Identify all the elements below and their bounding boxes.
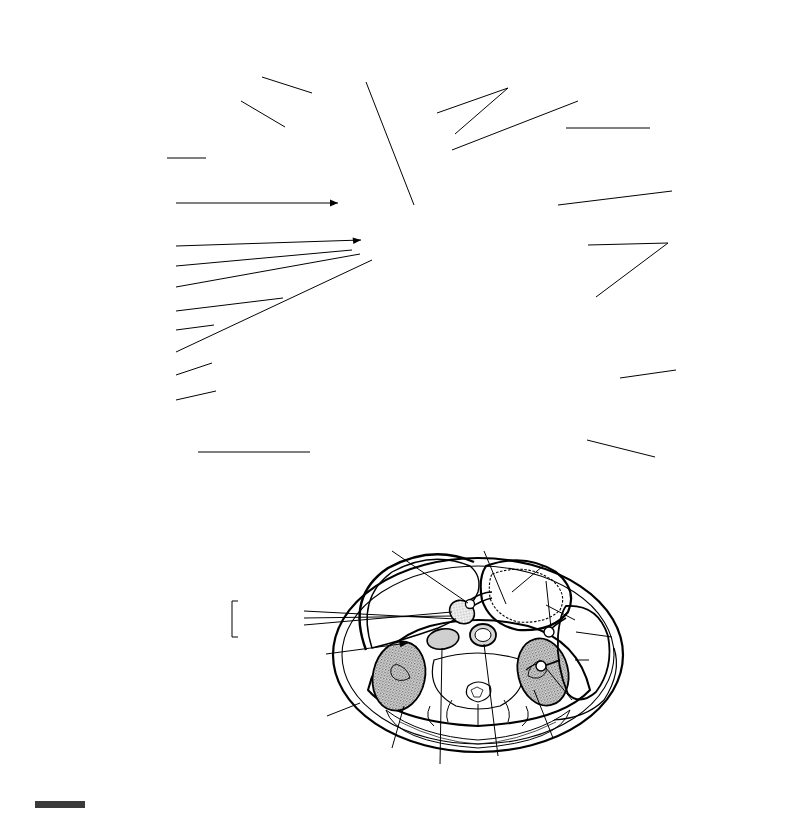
footer-bar xyxy=(35,801,85,808)
figure-page xyxy=(0,0,799,813)
panel-a-dissection-image xyxy=(172,42,662,512)
